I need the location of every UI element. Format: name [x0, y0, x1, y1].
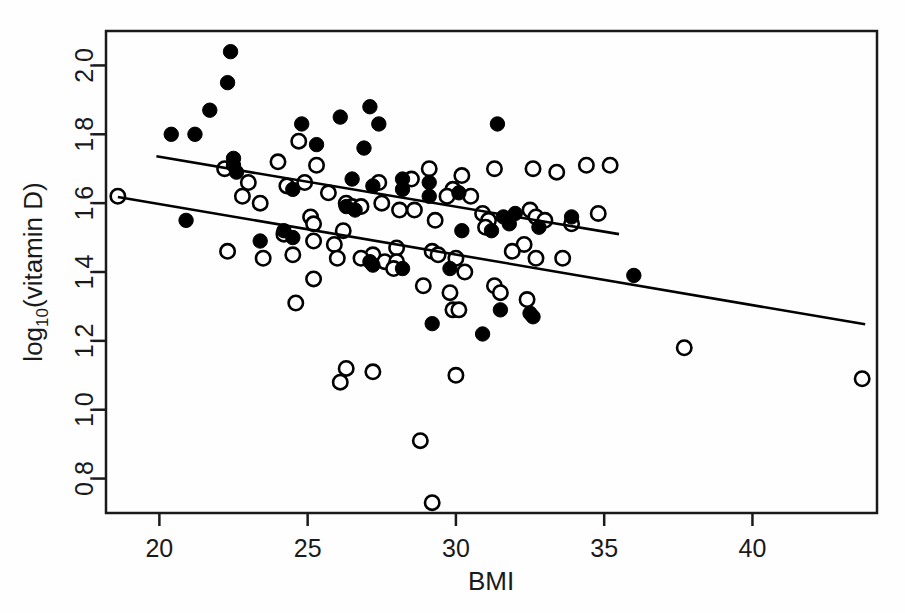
filled-data-point	[452, 186, 466, 200]
filled-data-point	[627, 268, 641, 282]
open-data-point	[487, 162, 501, 176]
open-data-point	[235, 189, 249, 203]
open-data-point	[286, 248, 300, 262]
open-data-point	[111, 189, 125, 203]
filled-data-point	[443, 261, 457, 275]
open-data-point	[855, 372, 869, 386]
filled-data-point	[422, 175, 436, 189]
open-data-point	[375, 196, 389, 210]
filled-data-point	[229, 165, 243, 179]
open-data-point	[253, 196, 267, 210]
svg-text:1.4: 1.4	[70, 255, 98, 290]
y-tick-label: 0.8	[70, 461, 98, 496]
filled-data-point	[220, 75, 234, 89]
filled-data-point	[366, 258, 380, 272]
x-tick-label: 30	[442, 534, 470, 562]
open-data-point	[309, 158, 323, 172]
filled-data-point	[357, 141, 371, 155]
filled-data-point	[253, 234, 267, 248]
open-data-point	[327, 237, 341, 251]
open-data-point	[458, 265, 472, 279]
y-tick-label: 1.8	[70, 117, 98, 152]
filled-data-point	[164, 127, 178, 141]
svg-text:0.8: 0.8	[70, 461, 98, 496]
open-data-point	[443, 285, 457, 299]
y-tick-label: 1.2	[70, 323, 98, 358]
open-data-point	[422, 162, 436, 176]
y-axis-title-base: log	[18, 327, 48, 362]
open-data-point	[579, 158, 593, 172]
open-data-point	[241, 175, 255, 189]
svg-text:2.0: 2.0	[70, 48, 98, 83]
open-data-point	[321, 186, 335, 200]
y-axis-title-subscript: 10	[33, 308, 52, 327]
open-data-point	[455, 168, 469, 182]
open-data-point	[292, 134, 306, 148]
open-data-point	[591, 206, 605, 220]
filled-data-point	[333, 110, 347, 124]
filled-data-point	[203, 103, 217, 117]
filled-data-point	[286, 182, 300, 196]
open-data-point	[603, 158, 617, 172]
x-axis-ticks	[159, 513, 752, 526]
y-tick-label: 1.0	[70, 392, 98, 427]
open-data-point	[526, 162, 540, 176]
filled-data-point	[484, 223, 498, 237]
svg-text:1.8: 1.8	[70, 117, 98, 152]
open-data-point	[339, 361, 353, 375]
open-data-point	[520, 292, 534, 306]
filled-data-point	[526, 310, 540, 324]
x-tick-label: 35	[590, 534, 618, 562]
svg-text:log10(vitamin D): log10(vitamin D)	[18, 182, 52, 361]
open-data-point	[428, 213, 442, 227]
x-axis-tick-labels: 2025303540	[145, 534, 766, 562]
open-data-point	[555, 251, 569, 265]
open-data-point	[493, 285, 507, 299]
filled-data-point	[564, 210, 578, 224]
y-tick-label: 2.0	[70, 48, 98, 83]
open-data-point	[407, 203, 421, 217]
open-data-point	[366, 365, 380, 379]
filled-data-point	[425, 316, 439, 330]
filled-data-point	[179, 213, 193, 227]
regression-lines	[118, 156, 865, 324]
filled-data-point	[295, 117, 309, 131]
open-data-point	[220, 244, 234, 258]
filled-data-point	[286, 230, 300, 244]
open-data-point	[416, 279, 430, 293]
filled-data-point	[372, 117, 386, 131]
open-data-point	[271, 155, 285, 169]
x-tick-label: 20	[145, 534, 173, 562]
open-data-point	[330, 251, 344, 265]
y-axis-title-rest: (vitamin D)	[18, 182, 48, 308]
filled-data-point	[502, 217, 516, 231]
filled-data-point	[345, 172, 359, 186]
open-data-point	[449, 368, 463, 382]
open-data-point	[550, 165, 564, 179]
filled-data-point	[455, 223, 469, 237]
open-data-point	[413, 434, 427, 448]
filled-data-point	[188, 127, 202, 141]
x-axis-title: BMI	[468, 566, 514, 596]
scatter-plot: 2025303540 0.81.01.21.41.61.82.0 BMI log…	[0, 0, 905, 613]
open-data-point	[529, 251, 543, 265]
chart-page: 2025303540 0.81.01.21.41.61.82.0 BMI log…	[0, 0, 905, 613]
open-data-point	[452, 303, 466, 317]
open-data-point	[505, 244, 519, 258]
filled-data-point	[348, 203, 362, 217]
open-data-point	[306, 234, 320, 248]
y-axis-tick-labels: 0.81.01.21.41.61.82.0	[70, 48, 98, 496]
filled-data-point	[475, 327, 489, 341]
open-circle-series	[111, 134, 870, 510]
svg-text:1.0: 1.0	[70, 392, 98, 427]
filled-data-point	[395, 261, 409, 275]
open-data-point	[306, 272, 320, 286]
filled-data-point	[223, 44, 237, 58]
filled-data-point	[363, 100, 377, 114]
open-data-point	[333, 375, 347, 389]
open-data-point	[289, 296, 303, 310]
open-data-point	[677, 341, 691, 355]
open-data-point	[392, 203, 406, 217]
plot-frame	[106, 31, 877, 513]
open-data-point	[256, 251, 270, 265]
